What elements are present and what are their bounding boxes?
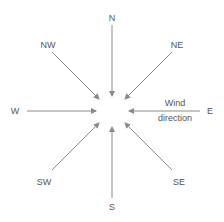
annotation-wind: Wind	[150, 98, 200, 108]
arrow-se	[125, 123, 172, 170]
label-nw: NW	[38, 40, 58, 50]
label-e: E	[204, 106, 216, 116]
label-s: S	[106, 202, 118, 212]
label-n: N	[106, 13, 118, 23]
arrow-nw	[52, 52, 99, 99]
compass-arrows	[0, 0, 224, 222]
arrow-sw	[52, 123, 99, 170]
arrow-ne	[125, 52, 172, 99]
label-sw: SW	[34, 177, 54, 187]
label-w: W	[8, 106, 22, 116]
label-ne: NE	[168, 40, 186, 50]
label-se: SE	[170, 177, 188, 187]
annotation-direction: direction	[150, 113, 200, 123]
